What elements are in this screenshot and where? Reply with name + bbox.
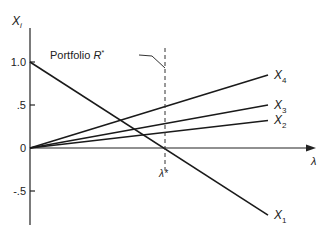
y-tick-label: -.5 [13, 185, 26, 197]
y-tick-label: 1.0 [11, 56, 26, 68]
series-line-x2 [30, 120, 268, 148]
series-label: X2 [273, 113, 287, 130]
portfolio-leader-line [139, 55, 165, 68]
series-label: X1 [273, 208, 287, 225]
series-label: X3 [273, 98, 287, 115]
x-axis-label: λ [310, 155, 316, 167]
lambda-star-label: λ* [158, 168, 169, 179]
chart-canvas: 1.0.50-.5 Xi λ X1X2X3X4 Portfolio R* λ* [0, 0, 328, 237]
series-label: X4 [273, 68, 287, 85]
y-ticks: 1.0.50-.5 [11, 56, 35, 197]
y-axis-label: Xi [11, 14, 22, 30]
series-line-x1 [30, 62, 268, 215]
x-axis-arrow-icon [306, 145, 316, 152]
series-lines: X1X2X3X4 [30, 62, 287, 225]
y-tick-label: .5 [17, 99, 26, 111]
y-tick-label: 0 [20, 142, 26, 154]
portfolio-label: Portfolio R* [50, 49, 104, 61]
